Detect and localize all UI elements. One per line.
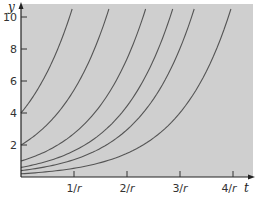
x-tick-label: 4/r [221,182,238,195]
y-tick-label: 2 [10,139,17,152]
y-tick-label: 8 [10,43,17,56]
exponential-growth-chart: y t 10 8 6 4 2 1/r 2/r [0,0,259,209]
y-tick-label: 4 [10,107,17,120]
x-tick-label: 1/r [66,182,83,195]
y-tick-label: 6 [10,75,17,88]
x-tick-label: 3/r [172,182,189,195]
x-tick-label: 2/r [119,182,136,195]
y-tick-label: 10 [3,11,17,24]
x-axis-label: t [244,181,249,195]
